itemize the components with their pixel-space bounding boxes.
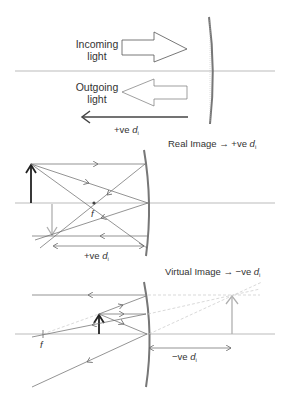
virtual-image-distance-label: −ve di [172,351,197,366]
ray-to-vertex [99,314,147,334]
outgoing-light-arrow [122,79,187,106]
incoming-label-line1: Incoming [72,38,122,50]
ray-to-vertex [31,164,148,203]
real-image-title: Real Image → +ve di [168,138,256,153]
bottom-panel [15,282,275,387]
focal-point-label: f [40,339,43,351]
real-image-title-sub: i [255,144,256,150]
real-distance-sub: i [108,256,109,262]
focal-point-label: f [91,208,94,220]
outgoing-label-line2: light [72,93,122,105]
virtual-image-title-prefix: Virtual Image → −ve [165,266,254,277]
ray-reflected-from-vertex [32,334,147,387]
middle-panel [15,150,275,256]
focal-point [92,201,95,204]
virtual-image-title-sub: i [259,272,260,278]
concave-mirror [144,282,150,387]
real-image-title-prefix: Real Image → +ve [168,138,250,149]
virtual-distance-prefix: −ve [172,351,190,362]
ray-incident [99,296,146,314]
virtual-image-title: Virtual Image → −ve di [165,266,260,281]
incoming-light-label: Incoming light [72,38,122,62]
real-image-distance-label: +ve di [84,250,109,265]
incoming-light-arrow [122,32,187,62]
concave-mirror [209,17,213,124]
virtual-ray-extension [149,282,262,334]
real-distance-prefix: +ve [84,250,102,261]
incoming-label-line2: light [72,50,122,62]
virtual-ray-extension [148,289,260,314]
direction-label-prefix: +ve [114,124,132,135]
top-panel [15,17,275,124]
mirror-diagram [0,0,290,403]
direction-label: +ve di [114,124,139,139]
outgoing-light-label: Outgoing light [72,81,122,105]
virtual-distance-sub: i [196,357,197,363]
direction-label-sub: i [138,130,139,136]
outgoing-label-line1: Outgoing [72,81,122,93]
ray-reflected-through-focus [32,314,146,337]
virtual-ray-extension [43,314,99,334]
